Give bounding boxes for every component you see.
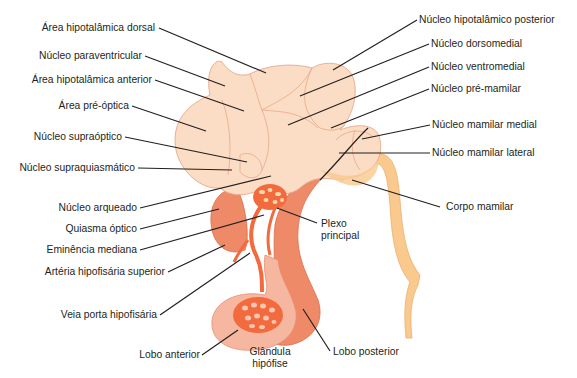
label-glandula-hipofise-line2: hipófise <box>244 358 296 370</box>
label-plexo-principal-line2: principal <box>321 230 359 242</box>
label-nucleo-supraquiasmatico: Núcleo supraquiasmático <box>19 162 135 174</box>
label-nucleo-supraoptico: Núcleo supraóptico <box>34 131 122 143</box>
hypothalamus-pituitary-diagram: Área hipotalâmica dorsal Núcleo paravent… <box>0 0 577 378</box>
label-area-pre-optica: Área pré-óptica <box>59 100 129 112</box>
label-glandula-hipofise: Glândula hipófise <box>244 346 296 370</box>
label-nucleo-mamilar-lateral: Núcleo mamilar lateral <box>432 147 534 159</box>
label-nucleo-mamilar-medial: Núcleo mamilar medial <box>432 119 537 131</box>
label-veia-porta-hipofisaria: Veia porta hipofisária <box>61 309 157 321</box>
label-plexo-principal: Plexo principal <box>321 218 359 242</box>
label-nucleo-paraventricular: Núcleo paraventricular <box>39 50 142 62</box>
label-glandula-hipofise-line1: Glândula <box>244 346 296 358</box>
label-arteria-hipofisaria-superior: Artéria hipofisária superior <box>45 266 165 278</box>
label-corpo-mamilar: Corpo mamilar <box>446 201 514 213</box>
hypothalamus-shape <box>175 61 381 195</box>
label-area-hipotalamica-dorsal: Área hipotalâmica dorsal <box>42 22 155 34</box>
label-nucleo-pre-mamilar: Núcleo pré-mamilar <box>431 83 521 95</box>
label-area-hipotalamica-anterior: Área hipotalâmica anterior <box>32 74 152 86</box>
label-nucleo-dorsomedial: Núcleo dorsomedial <box>431 38 522 50</box>
label-plexo-principal-line1: Plexo <box>321 218 359 230</box>
label-eminencia-mediana: Eminência mediana <box>47 244 137 256</box>
label-nucleo-arqueado: Núcleo arqueado <box>59 202 137 214</box>
label-nucleo-ventromedial: Núcleo ventromedial <box>431 61 525 73</box>
primary-plexus-shape <box>253 184 287 210</box>
label-lobo-anterior: Lobo anterior <box>139 349 200 361</box>
label-nucleo-hipotalamico-posterior: Núcleo hipotalâmico posterior <box>419 14 555 26</box>
label-quiasma-optico: Quiasma óptico <box>65 223 137 235</box>
label-lobo-posterior: Lobo posterior <box>333 346 399 358</box>
